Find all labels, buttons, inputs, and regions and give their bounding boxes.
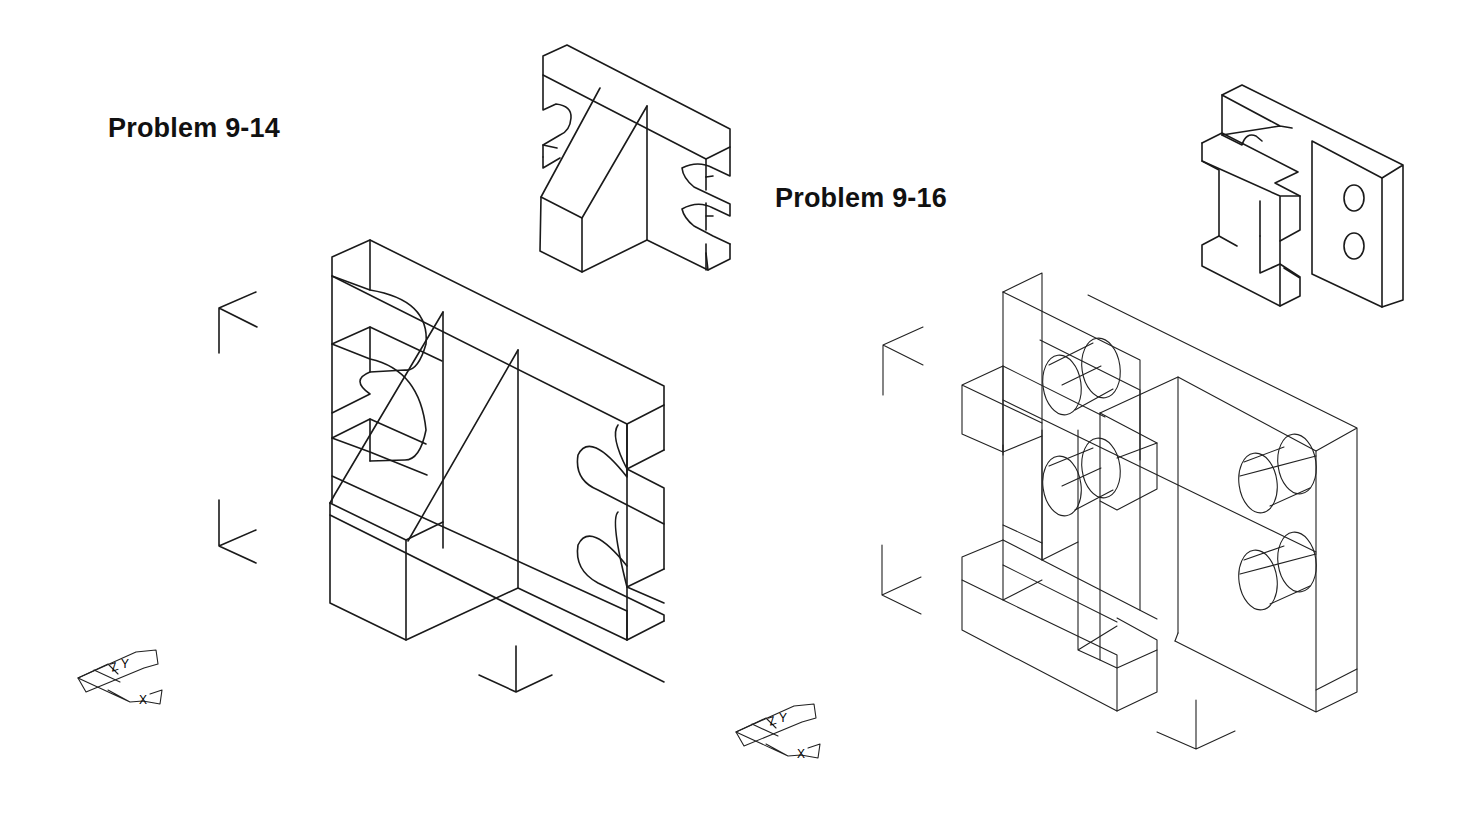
drawing-canvas: Y Z X <box>0 0 1480 833</box>
problem-9-16-reference-pictorial <box>1202 85 1403 307</box>
axis-z-label-9-14: Z <box>108 659 120 675</box>
view-direction-markers-9-16 <box>882 327 1235 749</box>
problem-9-14-wireframe <box>330 240 664 682</box>
axis-y-label-9-16: Y <box>779 711 787 725</box>
axis-z-label-9-16: Z <box>766 713 778 729</box>
axis-x-label-9-14: X <box>139 693 147 707</box>
axis-y-label-9-14: Y <box>121 657 129 671</box>
axis-triad-9-14 <box>78 650 162 704</box>
axis-triad-9-16 <box>736 704 820 758</box>
axis-x-label-9-16: X <box>797 747 805 761</box>
view-direction-markers-9-14 <box>219 292 552 692</box>
problem-9-14-reference-pictorial <box>540 45 730 272</box>
problem-9-16-wireframe <box>962 273 1357 712</box>
